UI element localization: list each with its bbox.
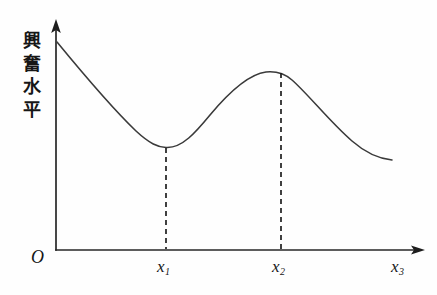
arousal-curve <box>57 42 392 160</box>
x-tick-label-x1: x1 <box>157 258 170 275</box>
figure-root: 興 奮 水 平 O x1 x2 x3 <box>0 0 437 295</box>
y-axis-title-char-3: 水 <box>23 75 41 98</box>
x-tick-label-x3-base: x <box>391 257 399 276</box>
origin-label: O <box>31 248 44 266</box>
y-axis-title-char-1: 興 <box>23 29 41 52</box>
y-axis-title: 興 奮 水 平 <box>18 29 45 121</box>
chart-canvas <box>0 0 437 295</box>
x-tick-label-x2-base: x <box>272 257 280 276</box>
x-tick-label-x1-base: x <box>157 257 165 276</box>
x-tick-label-x3-subscript: 3 <box>399 266 404 277</box>
y-axis-title-char-2: 奮 <box>23 52 41 75</box>
x-tick-label-x1-subscript: 1 <box>165 266 170 277</box>
x-tick-label-x2-subscript: 2 <box>280 266 285 277</box>
x-tick-label-x3: x3 <box>391 258 404 275</box>
y-axis-title-char-4: 平 <box>23 98 41 121</box>
x-tick-label-x2: x2 <box>272 258 285 275</box>
